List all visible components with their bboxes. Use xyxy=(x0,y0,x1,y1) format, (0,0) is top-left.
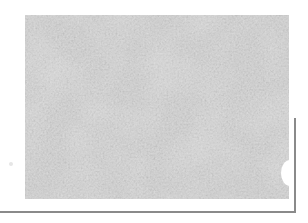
frame-line-right xyxy=(294,118,296,213)
cell-texture xyxy=(25,15,289,199)
frame-line-bottom xyxy=(0,211,296,213)
micrograph-image xyxy=(25,15,289,199)
image-edge-notch xyxy=(281,160,299,186)
stray-mark xyxy=(9,162,13,166)
